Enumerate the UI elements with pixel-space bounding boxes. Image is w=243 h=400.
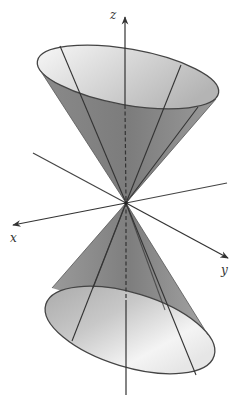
apex-vertex (124, 201, 128, 205)
x-axis-label: x (10, 232, 17, 244)
lower-nappe (35, 203, 225, 391)
x-axis-positive (13, 203, 126, 225)
double-cone-figure (0, 0, 243, 400)
upper-nappe (33, 33, 224, 203)
z-axis-label: z (110, 9, 116, 21)
y-axis-label: y (221, 264, 228, 276)
